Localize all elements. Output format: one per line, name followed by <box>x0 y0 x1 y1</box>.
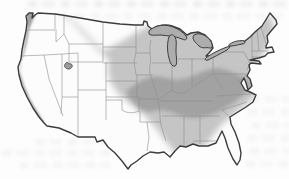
us-range-map <box>0 0 289 179</box>
scanned-page <box>0 0 289 179</box>
